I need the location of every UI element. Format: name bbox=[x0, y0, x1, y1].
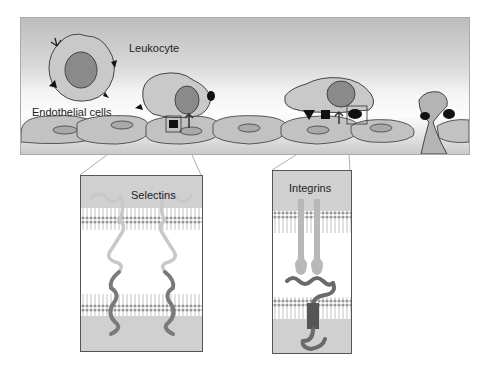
inset-title-integrins: Integrins bbox=[289, 182, 331, 194]
label-endothelial-cells: Endothelial cells bbox=[32, 106, 112, 118]
endothelial-cell-layer bbox=[21, 116, 469, 144]
leukocyte-free bbox=[49, 34, 117, 101]
membrane-bottom bbox=[81, 294, 202, 316]
label-leukocyte: Leukocyte bbox=[129, 42, 179, 54]
leukocyte-adhered bbox=[285, 78, 374, 124]
inset-selectins: Selectins bbox=[80, 175, 203, 352]
membrane-top bbox=[81, 208, 202, 230]
inset-title-selectins: Selectins bbox=[131, 189, 176, 201]
top-panel-vessel-scene: Leukocyte Endothelial cells bbox=[20, 17, 470, 155]
inset-integrins: Integrins bbox=[272, 170, 352, 354]
